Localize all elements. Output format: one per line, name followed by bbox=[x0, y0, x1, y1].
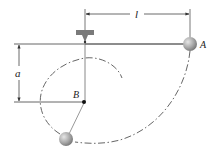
pendulum-diagram: l a B A bbox=[0, 0, 220, 153]
pivot-point bbox=[84, 41, 86, 43]
trajectory-large-arc bbox=[75, 51, 190, 143]
ball-bottom bbox=[59, 132, 73, 146]
length-label: l bbox=[135, 8, 138, 20]
peg-b bbox=[82, 100, 86, 104]
point-a-label: A bbox=[199, 39, 207, 50]
pivot-support bbox=[76, 30, 94, 42]
trajectory-small-arc bbox=[40, 58, 122, 134]
pendulum-string bbox=[69, 103, 84, 134]
point-b-label: B bbox=[73, 89, 79, 100]
offset-label: a bbox=[15, 67, 21, 79]
ball-at-a bbox=[183, 37, 197, 51]
